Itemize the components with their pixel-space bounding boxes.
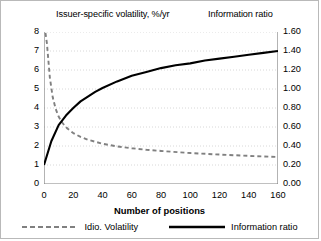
x-tick-label: 20 xyxy=(58,190,88,200)
right-tick-label: 0.20 xyxy=(283,159,301,169)
legend-label: Idio. Volatility xyxy=(84,222,138,232)
right-tick-label: 1.60 xyxy=(283,26,301,36)
x-tick-label: 120 xyxy=(205,190,235,200)
x-tick-label: 0 xyxy=(29,190,59,200)
left-axis-title: Issuer-specific volatility, %/yr xyxy=(56,9,170,19)
x-axis-title: Number of positions xyxy=(1,205,318,216)
legend-item: Information ratio xyxy=(168,222,297,232)
x-tick-label: 80 xyxy=(146,190,176,200)
plot-area xyxy=(44,32,278,184)
left-tick-label: 3 xyxy=(15,121,39,131)
right-tick-label: 0.00 xyxy=(283,178,301,188)
series-lines xyxy=(44,33,278,165)
left-tick-label: 4 xyxy=(15,102,39,112)
series-line-idio-volatility xyxy=(45,33,278,157)
right-tick-label: 0.40 xyxy=(283,140,301,150)
left-tick-label: 2 xyxy=(15,140,39,150)
right-tick-label: 1.00 xyxy=(283,83,301,93)
x-tick-label: 60 xyxy=(117,190,147,200)
right-tick-label: 1.20 xyxy=(283,64,301,74)
right-tick-label: 0.60 xyxy=(283,121,301,131)
chart-figure: Issuer-specific volatility, %/yr Informa… xyxy=(0,0,319,239)
legend-label: Information ratio xyxy=(231,222,297,232)
x-tick-label: 140 xyxy=(234,190,264,200)
legend-swatch-dashed xyxy=(21,223,79,231)
x-tick-label: 160 xyxy=(263,190,293,200)
legend-item: Idio. Volatility xyxy=(21,222,138,232)
chart-legend: Idio. VolatilityInformation ratio xyxy=(1,222,318,232)
right-tick-label: 1.40 xyxy=(283,45,301,55)
plot-svg xyxy=(44,32,278,184)
x-tick-label: 100 xyxy=(175,190,205,200)
left-tick-label: 5 xyxy=(15,83,39,93)
left-tick-label: 8 xyxy=(15,26,39,36)
x-tick-label: 40 xyxy=(88,190,118,200)
left-tick-label: 1 xyxy=(15,159,39,169)
right-axis-title: Information ratio xyxy=(208,9,273,19)
legend-swatch-solid xyxy=(168,223,226,231)
left-tick-label: 0 xyxy=(15,178,39,188)
left-tick-label: 6 xyxy=(15,64,39,74)
right-tick-label: 0.80 xyxy=(283,102,301,112)
left-tick-label: 7 xyxy=(15,45,39,55)
